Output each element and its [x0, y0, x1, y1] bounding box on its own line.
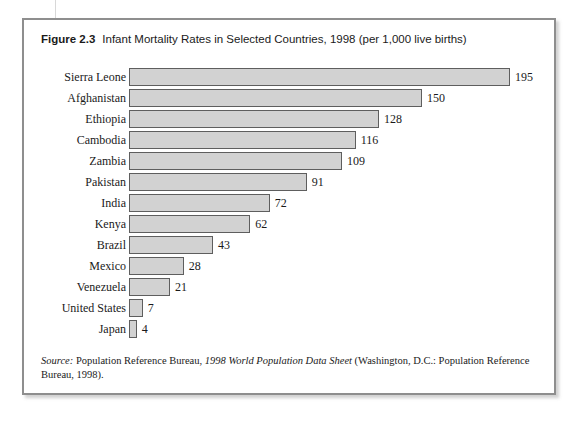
chart-row: Zambia109: [24, 151, 554, 172]
bar: [129, 131, 356, 149]
bar-category-label: Afghanistan: [24, 88, 126, 109]
bar: [129, 194, 270, 212]
bar-value-label: 91: [312, 172, 324, 193]
bar-value-label: 128: [384, 109, 402, 130]
bar-value-label: 109: [347, 151, 365, 172]
chart-row: Afghanistan150: [24, 88, 554, 109]
bar-value-label: 150: [427, 88, 445, 109]
chart-row: Japan4: [24, 319, 554, 340]
bar-category-label: Zambia: [24, 151, 126, 172]
bar-value-label: 43: [218, 235, 230, 256]
bar-category-label: Cambodia: [24, 130, 126, 151]
chart-row: Cambodia116: [24, 130, 554, 151]
bar-value-label: 28: [189, 256, 201, 277]
bar-value-label: 195: [515, 67, 533, 88]
bar-category-label: Mexico: [24, 256, 126, 277]
bar-value-label: 62: [255, 214, 267, 235]
bar-category-label: Japan: [24, 319, 126, 340]
figure-title-text: Infant Mortality Rates in Selected Count…: [102, 33, 466, 45]
bar: [129, 68, 510, 86]
chart-row: Brazil43: [24, 235, 554, 256]
bar-value-label: 72: [275, 193, 287, 214]
bar-value-label: 4: [142, 319, 148, 340]
bar: [129, 215, 250, 233]
source-title: 1998 World Population Data Sheet: [205, 355, 352, 366]
chart-row: India72: [24, 193, 554, 214]
bar: [129, 89, 422, 107]
bar: [129, 320, 137, 338]
chart-row: Venezuela21: [24, 277, 554, 298]
scan-artifact: [55, 0, 56, 19]
bar-value-label: 116: [361, 130, 379, 151]
source-publisher: Population Reference Bureau,: [73, 355, 205, 366]
chart-row: Sierra Leone195: [24, 67, 554, 88]
figure-title: Figure 2.3Infant Mortality Rates in Sele…: [41, 33, 467, 45]
bar-category-label: Sierra Leone: [24, 67, 126, 88]
bar: [129, 110, 379, 128]
bar-category-label: Venezuela: [24, 277, 126, 298]
chart-row: Ethiopia128: [24, 109, 554, 130]
source-note: Source: Population Reference Bureau, 199…: [41, 354, 536, 382]
bar-category-label: Pakistan: [24, 172, 126, 193]
chart-row: United States7: [24, 298, 554, 319]
figure-number: Figure 2.3: [41, 33, 95, 45]
bar: [129, 173, 307, 191]
source-label: Source:: [41, 355, 73, 366]
bar-category-label: Kenya: [24, 214, 126, 235]
figure-frame: Figure 2.3Infant Mortality Rates in Sele…: [22, 18, 556, 395]
bar-category-label: India: [24, 193, 126, 214]
bar-category-label: Ethiopia: [24, 109, 126, 130]
bar: [129, 236, 213, 254]
bar-value-label: 7: [148, 298, 154, 319]
bar-chart: Sierra Leone195Afghanistan150Ethiopia128…: [24, 67, 554, 345]
chart-row: Kenya62: [24, 214, 554, 235]
bar-category-label: Brazil: [24, 235, 126, 256]
chart-row: Pakistan91: [24, 172, 554, 193]
bar: [129, 278, 170, 296]
bar: [129, 299, 143, 317]
bar: [129, 257, 184, 275]
chart-row: Mexico28: [24, 256, 554, 277]
bar: [129, 152, 342, 170]
bar-value-label: 21: [175, 277, 187, 298]
bar-category-label: United States: [24, 298, 126, 319]
